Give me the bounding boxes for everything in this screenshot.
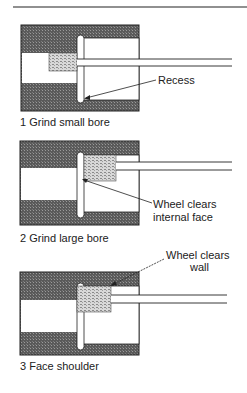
callout-wheel-clears-wall-line1: Wheel clears — [166, 249, 230, 261]
large-bore-1 — [82, 38, 139, 100]
caption-2: 2 Grind large bore — [20, 232, 109, 244]
grinding-diagram: Recess 1 Grind small bore Wheel clears i… — [0, 0, 247, 393]
recess-groove-2 — [77, 152, 84, 218]
panel-3-face-shoulder: Wheel clears wall 3 Face shoulder — [20, 249, 230, 372]
grinding-wheel-1 — [49, 53, 77, 71]
callout-wheel-clears-wall-line2: wall — [189, 261, 209, 273]
spindle-2 — [116, 162, 232, 170]
small-bore-3 — [21, 300, 81, 332]
spindle-1 — [77, 59, 232, 66]
callout-wheel-clears-internal-face-line2: internal face — [153, 211, 213, 223]
callout-wheel-clears-internal-face-line1: Wheel clears — [153, 198, 217, 210]
caption-3: 3 Face shoulder — [20, 360, 99, 372]
caption-1: 1 Grind small bore — [20, 116, 110, 128]
grinding-wheel-3 — [77, 286, 111, 312]
grinding-wheel-2 — [84, 155, 116, 181]
panel-2-grind-large-bore: Wheel clears internal face 2 Grind large… — [20, 141, 232, 244]
spindle-3 — [111, 295, 227, 303]
panel-1-grind-small-bore: Recess 1 Grind small bore — [20, 25, 232, 128]
small-bore-2 — [21, 168, 81, 200]
callout-recess: Recess — [158, 74, 195, 86]
recess-groove-1 — [77, 35, 84, 103]
